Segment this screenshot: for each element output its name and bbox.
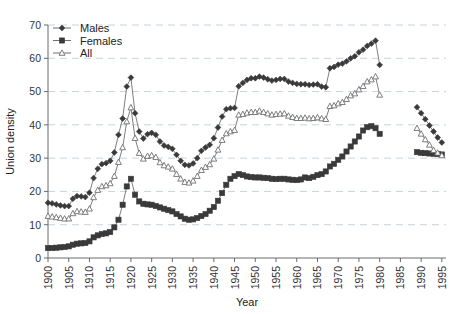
- union-density-line-chart: 1900190519101915192019251930193519401945…: [0, 0, 454, 314]
- data-point-marker: [323, 169, 328, 174]
- data-point-marker: [124, 84, 130, 90]
- legend-label-all: All: [80, 47, 92, 59]
- series-line: [48, 77, 380, 219]
- legend-label-males: Males: [80, 22, 110, 34]
- data-point-marker: [281, 110, 287, 115]
- x-tick-label: 1990: [415, 266, 427, 290]
- x-tick-label: 1950: [249, 266, 261, 290]
- y-tick-label: 70: [29, 19, 41, 31]
- data-point-marker: [427, 123, 433, 129]
- data-series-group: [45, 38, 445, 251]
- data-point-marker: [431, 129, 437, 135]
- data-point-marker: [224, 182, 229, 187]
- data-point-marker: [377, 92, 383, 97]
- data-point-marker: [116, 132, 122, 138]
- x-axis-title: Year: [236, 296, 259, 308]
- data-point-marker: [120, 202, 125, 207]
- data-point-marker: [112, 225, 117, 230]
- x-tick-label: 1945: [229, 266, 241, 290]
- data-point-marker: [149, 152, 155, 157]
- x-tick-label: 1960: [291, 266, 303, 290]
- data-point-marker: [220, 190, 225, 195]
- data-point-marker: [111, 173, 117, 178]
- x-tick-label: 1905: [63, 266, 75, 290]
- data-point-marker: [66, 203, 72, 209]
- y-tick-label: 20: [29, 185, 41, 197]
- data-point-marker: [232, 127, 238, 132]
- gridlines-group: [48, 25, 446, 225]
- x-tick-label: 1955: [270, 266, 282, 290]
- data-point-marker: [136, 150, 142, 155]
- y-axis-ticks: 010203040506070: [29, 19, 48, 264]
- data-point-marker: [116, 217, 121, 222]
- data-point-marker: [91, 194, 97, 199]
- x-tick-label: 1920: [125, 266, 137, 290]
- data-point-marker: [211, 204, 216, 209]
- y-tick-label: 0: [35, 252, 41, 264]
- data-point-marker: [373, 73, 379, 78]
- x-tick-label: 1935: [187, 266, 199, 290]
- data-point-marker: [120, 116, 126, 122]
- data-point-marker: [215, 125, 221, 131]
- data-point-marker: [348, 144, 353, 149]
- data-point-marker: [219, 114, 225, 120]
- data-point-marker: [136, 129, 142, 135]
- series-all: [45, 73, 445, 221]
- y-tick-label: 40: [29, 119, 41, 131]
- data-point-marker: [219, 137, 225, 142]
- data-point-marker: [111, 150, 117, 156]
- x-tick-label: 1930: [166, 266, 178, 290]
- chart-container: 1900190519101915192019251930193519401945…: [0, 0, 454, 314]
- data-point-marker: [215, 198, 220, 203]
- data-point-marker: [132, 110, 138, 116]
- x-tick-label: 1985: [394, 266, 406, 290]
- x-tick-label: 1900: [42, 266, 54, 290]
- data-point-marker: [128, 75, 134, 81]
- data-point-marker: [352, 139, 357, 144]
- data-point-marker: [356, 134, 361, 139]
- x-tick-label: 1915: [104, 266, 116, 290]
- data-point-marker: [323, 84, 329, 90]
- legend-label-females: Females: [80, 35, 123, 47]
- x-tick-label: 1925: [146, 266, 158, 290]
- y-tick-label: 10: [29, 219, 41, 231]
- data-point-marker: [344, 149, 349, 154]
- x-tick-label: 1940: [208, 266, 220, 290]
- x-tick-label: 1980: [374, 266, 386, 290]
- x-tick-label: 1965: [311, 266, 323, 290]
- data-point-marker: [128, 104, 134, 109]
- data-point-marker: [132, 192, 137, 197]
- x-tick-label: 1910: [83, 266, 95, 290]
- data-point-marker: [132, 135, 138, 140]
- data-point-marker: [211, 135, 217, 141]
- data-point-marker: [116, 159, 122, 164]
- y-tick-label: 50: [29, 85, 41, 97]
- chart-legend: MalesFemalesAll: [53, 22, 123, 59]
- data-point-marker: [87, 206, 93, 211]
- data-point-marker: [59, 25, 65, 31]
- x-axis-ticks: 1900190519101915192019251930193519401945…: [42, 258, 448, 289]
- data-point-marker: [124, 184, 129, 189]
- x-tick-label: 1975: [353, 266, 365, 290]
- data-point-marker: [418, 110, 424, 116]
- y-tick-label: 30: [29, 152, 41, 164]
- data-point-marker: [107, 180, 113, 185]
- axes-group: [48, 25, 446, 258]
- x-tick-label: 1970: [332, 266, 344, 290]
- y-tick-label: 60: [29, 52, 41, 64]
- data-point-marker: [373, 126, 378, 131]
- data-point-marker: [120, 144, 126, 149]
- data-point-marker: [377, 62, 383, 68]
- data-point-marker: [414, 125, 420, 130]
- data-point-marker: [174, 152, 180, 158]
- data-point-marker: [232, 105, 238, 111]
- data-point-marker: [59, 38, 64, 43]
- y-axis-title: Union density: [4, 108, 16, 175]
- data-point-marker: [128, 176, 133, 181]
- data-point-marker: [91, 175, 97, 181]
- data-point-marker: [215, 147, 221, 152]
- x-tick-label: 1995: [436, 266, 448, 290]
- data-point-marker: [414, 104, 420, 110]
- data-point-marker: [422, 116, 428, 122]
- data-point-marker: [340, 154, 345, 159]
